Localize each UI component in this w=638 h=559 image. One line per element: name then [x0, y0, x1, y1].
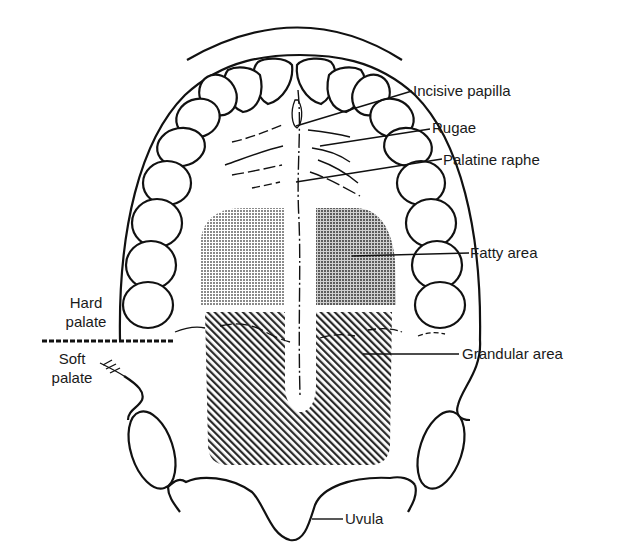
label-rugae: Rugae — [432, 119, 476, 136]
label-fatty-area: Fatty area — [470, 244, 538, 261]
glandular-area — [205, 312, 392, 465]
soft-palate-hatch — [100, 360, 124, 376]
tonsil-connector-left — [168, 487, 180, 512]
label-soft-palate-line1: Soft — [44, 350, 100, 367]
label-uvula: Uvula — [345, 510, 383, 527]
fatty-area-left — [200, 208, 285, 305]
rugae-right — [308, 130, 360, 196]
label-palatine-raphe: Palatine raphe — [443, 151, 540, 168]
uvula-outline — [168, 477, 415, 540]
label-hard-palate-line2: palate — [58, 313, 114, 330]
palate-diagram: Incisive papilla Rugae Palatine raphe Fa… — [0, 0, 638, 559]
rugae-left — [225, 125, 283, 188]
incisive-papilla-shape — [292, 100, 302, 128]
label-soft-palate-line2: palate — [44, 369, 100, 386]
diagram-canvas — [0, 0, 638, 559]
label-grandular-area: Grandular area — [462, 345, 563, 362]
label-hard-palate-line1: Hard — [58, 294, 114, 311]
pharynx-outline — [124, 340, 480, 420]
label-incisive-papilla: Incisive papilla — [413, 82, 511, 99]
tonsil-connector-right — [408, 485, 416, 512]
palatine-raphe-line — [298, 90, 300, 395]
